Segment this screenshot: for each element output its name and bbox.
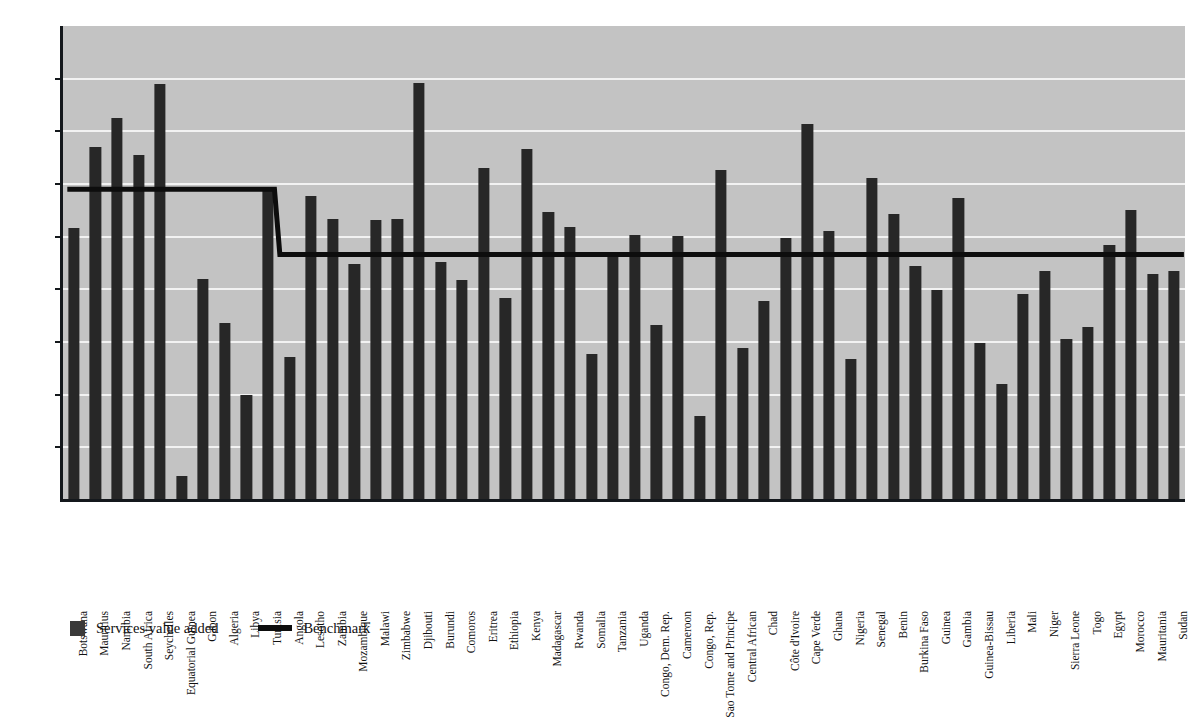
bar-slot <box>991 26 1013 500</box>
bar[interactable] <box>198 279 209 500</box>
bar[interactable] <box>1039 271 1050 500</box>
bar-slot <box>279 26 301 500</box>
bar-slot <box>840 26 862 500</box>
bar[interactable] <box>111 118 122 500</box>
x-tick-label: Tunisia <box>272 577 284 611</box>
bar[interactable] <box>521 149 532 500</box>
bar[interactable] <box>349 264 360 500</box>
bar-slot <box>1034 26 1056 500</box>
x-tick-label: Egypt <box>1113 584 1125 611</box>
x-tick-label-text: Togo <box>1092 611 1104 634</box>
bar-slot <box>926 26 948 500</box>
bar-slot <box>408 26 430 500</box>
bar[interactable] <box>262 189 273 500</box>
x-tick-label-text: Comoros <box>466 611 478 653</box>
bar-slot <box>344 26 366 500</box>
bar[interactable] <box>370 220 381 500</box>
x-tick-label: Niger <box>1049 585 1061 611</box>
bar[interactable] <box>974 343 985 500</box>
bar[interactable] <box>1082 327 1093 500</box>
x-tick-label: Algeria <box>229 577 241 611</box>
bar[interactable] <box>1061 339 1072 500</box>
legend-item-services-value-added[interactable]: Services value added <box>70 621 218 636</box>
x-tick-label: Burundi <box>445 573 457 611</box>
bar[interactable] <box>672 236 683 500</box>
bar-slot <box>753 26 775 500</box>
x-tick-label: Ghana <box>833 581 845 611</box>
bar[interactable] <box>845 359 856 500</box>
bar[interactable] <box>608 252 619 500</box>
x-tick-label-text: Chad <box>768 611 780 635</box>
legend-item-benchmark[interactable]: Benchmark <box>258 621 370 636</box>
bar[interactable] <box>1018 294 1029 500</box>
x-tick-label-text: Cape Verde <box>811 611 823 664</box>
bar-slot <box>106 26 128 500</box>
bar[interactable] <box>435 262 446 500</box>
bar[interactable] <box>867 178 878 500</box>
bar[interactable] <box>888 214 899 500</box>
bar-slot <box>300 26 322 500</box>
bar[interactable] <box>586 354 597 500</box>
x-tick-label-text: Benin <box>898 611 910 638</box>
bar[interactable] <box>500 298 511 500</box>
bar[interactable] <box>154 84 165 500</box>
x-tick-label-text: Central African <box>747 611 759 682</box>
bar-slot <box>430 26 452 500</box>
bar[interactable] <box>694 416 705 500</box>
bar[interactable] <box>910 266 921 500</box>
legend-bar-swatch-icon <box>70 621 85 636</box>
x-tick-label-text: Sudan <box>1178 611 1190 640</box>
bar[interactable] <box>759 301 770 500</box>
bar[interactable] <box>392 219 403 500</box>
x-tick-label-text: Ghana <box>833 611 845 641</box>
x-tick-label-text: Somalia <box>596 611 608 649</box>
bar[interactable] <box>953 198 964 500</box>
bar[interactable] <box>543 212 554 500</box>
bar[interactable] <box>823 231 834 500</box>
x-tick-label: Congo, Dem. Rep. <box>660 525 672 611</box>
bar[interactable] <box>651 325 662 500</box>
bar[interactable] <box>931 290 942 500</box>
bar[interactable] <box>284 357 295 500</box>
bar[interactable] <box>1104 245 1115 500</box>
bar[interactable] <box>737 348 748 500</box>
bar[interactable] <box>133 155 144 500</box>
bar-slot <box>1099 26 1121 500</box>
bar-slot <box>214 26 236 500</box>
bar-slot <box>1056 26 1078 500</box>
x-tick-label-text: Ethiopia <box>509 611 521 650</box>
bar-slot <box>581 26 603 500</box>
bar[interactable] <box>306 196 317 500</box>
bar[interactable] <box>241 395 252 500</box>
bar[interactable] <box>1125 210 1136 500</box>
x-tick-label: Ethiopia <box>509 572 521 611</box>
bar[interactable] <box>564 227 575 500</box>
x-tick-label-text: Cameroon <box>682 611 694 659</box>
legend-label-benchmark: Benchmark <box>303 621 370 636</box>
x-tick-label: Zambia <box>337 576 349 611</box>
bar-slot <box>883 26 905 500</box>
bar-slot <box>149 26 171 500</box>
bar[interactable] <box>176 476 187 500</box>
x-tick-label: Togo <box>1092 588 1104 611</box>
bar[interactable] <box>219 323 230 500</box>
bar-slot <box>473 26 495 500</box>
bar[interactable] <box>802 124 813 500</box>
bar[interactable] <box>327 219 338 500</box>
bar[interactable] <box>780 238 791 500</box>
y-tick-mark <box>55 78 61 80</box>
bar[interactable] <box>457 280 468 500</box>
bar[interactable] <box>996 384 1007 500</box>
bar[interactable] <box>715 170 726 500</box>
x-tick-label-text: Madagascar <box>552 611 564 667</box>
x-tick-label-text: Tanzania <box>617 611 629 652</box>
y-axis-tick-labels: 0102030405060708090 <box>0 0 46 500</box>
bar[interactable] <box>629 235 640 500</box>
x-tick-label: Mauritius <box>99 566 111 611</box>
bar[interactable] <box>1169 271 1180 500</box>
bar[interactable] <box>478 168 489 500</box>
bar[interactable] <box>68 228 79 500</box>
bar[interactable] <box>1147 274 1158 500</box>
bar[interactable] <box>413 83 424 500</box>
bar[interactable] <box>90 147 101 500</box>
